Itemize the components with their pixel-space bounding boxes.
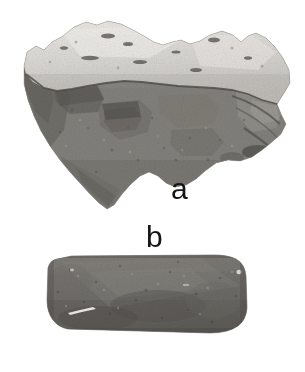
figure-label-a: a	[171, 174, 188, 204]
archaeological-plate: a b	[0, 0, 305, 372]
artifact-b-group	[44, 252, 252, 340]
artifact-illustration-layer	[0, 0, 305, 372]
figure-label-b: b	[146, 222, 163, 252]
artifact-a-group	[18, 14, 300, 216]
